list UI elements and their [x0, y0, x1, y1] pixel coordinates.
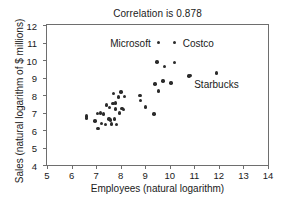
- y-tick-label: 12: [26, 20, 37, 31]
- x-tick-label: 11: [189, 170, 199, 181]
- x-tick: [243, 165, 244, 169]
- x-tick: [194, 165, 195, 169]
- y-tick: 7: [43, 113, 47, 114]
- data-point: [157, 41, 160, 44]
- y-tick: 11: [43, 43, 47, 44]
- data-point: [108, 106, 111, 109]
- x-axis-title: Employees (natural logarithm): [46, 183, 269, 194]
- data-point: [173, 61, 176, 64]
- data-point: [93, 119, 96, 122]
- x-tick-label: 12: [214, 170, 225, 181]
- x-tick: [268, 165, 269, 169]
- data-point: [113, 117, 116, 120]
- data-point: [104, 123, 107, 126]
- y-tick-label: 10: [26, 55, 37, 66]
- x-tick: [72, 165, 73, 169]
- data-point: [112, 92, 115, 95]
- scatter-plot-figure: Correlation is 0.878 456789101112 567891…: [0, 0, 288, 202]
- x-tick: [47, 165, 48, 169]
- x-tick: [170, 165, 171, 169]
- y-tick-label: 7: [32, 108, 37, 119]
- data-point: [115, 123, 118, 126]
- y-tick-label: 5: [32, 143, 37, 154]
- y-tick-label: 6: [32, 125, 37, 136]
- data-point: [100, 122, 103, 125]
- annotation-starbucks: Starbucks: [194, 79, 238, 90]
- data-point: [110, 122, 113, 125]
- data-point: [109, 118, 112, 121]
- x-tick-label: 5: [44, 170, 49, 181]
- y-axis-title: Sales (natural logarithm of $ millions): [14, 0, 28, 202]
- plot-area: 456789101112 567891011121314 MicrosoftCo…: [46, 24, 269, 166]
- data-point: [161, 79, 164, 82]
- data-point: [118, 111, 121, 114]
- x-tick: [121, 165, 122, 169]
- data-point: [153, 82, 156, 85]
- x-tick-label: 10: [164, 170, 175, 181]
- data-point: [152, 112, 155, 115]
- x-tick-label: 9: [143, 170, 148, 181]
- x-tick-label: 13: [238, 170, 249, 181]
- y-tick: 12: [43, 25, 47, 26]
- data-point: [96, 127, 99, 130]
- y-tick: 9: [43, 78, 47, 79]
- data-point: [117, 95, 120, 98]
- data-point: [173, 41, 176, 44]
- y-tick-label: 8: [32, 90, 37, 101]
- data-points-layer: [47, 25, 268, 165]
- x-tick-label: 14: [263, 170, 274, 181]
- annotation-microsoft: Microsoft: [110, 37, 151, 48]
- data-point: [169, 81, 172, 84]
- data-point: [119, 90, 122, 93]
- y-tick-label: 11: [27, 38, 37, 49]
- y-tick-label: 9: [32, 73, 37, 84]
- data-point: [189, 74, 192, 77]
- annotation-costco: Costco: [183, 37, 214, 48]
- data-point: [157, 89, 160, 92]
- data-point: [122, 108, 125, 111]
- data-point: [215, 71, 218, 74]
- y-tick: 10: [43, 60, 47, 61]
- data-point: [123, 95, 126, 98]
- x-tick: [219, 165, 220, 169]
- data-point: [163, 65, 166, 68]
- data-point: [85, 116, 88, 119]
- data-point: [139, 99, 142, 102]
- y-tick: 8: [43, 95, 47, 96]
- chart-title: Correlation is 0.878: [46, 8, 269, 19]
- data-point: [144, 105, 147, 108]
- data-point: [138, 94, 141, 97]
- data-point: [102, 112, 105, 115]
- y-tick: 5: [43, 148, 47, 149]
- x-tick-label: 8: [118, 170, 123, 181]
- y-tick: 6: [43, 130, 47, 131]
- y-tick-label: 4: [32, 160, 37, 171]
- x-tick: [145, 165, 146, 169]
- x-tick: [96, 165, 97, 169]
- x-tick-label: 7: [93, 170, 98, 181]
- data-point: [114, 101, 117, 104]
- data-point: [114, 107, 117, 110]
- data-point: [155, 60, 158, 63]
- x-tick-label: 6: [69, 170, 74, 181]
